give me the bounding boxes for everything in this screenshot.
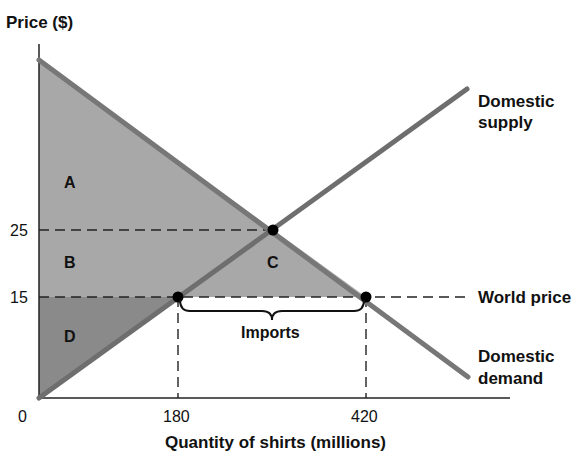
y-axis-title: Price ($) xyxy=(6,13,73,32)
region-b-label: B xyxy=(64,254,76,271)
demand-label-line1: Domestic xyxy=(478,347,555,366)
region-a-label: A xyxy=(64,174,76,191)
imports-label: Imports xyxy=(241,324,300,341)
world-price-label: World price xyxy=(478,288,571,307)
x-tick-180: 180 xyxy=(163,408,190,425)
y-tick-15: 15 xyxy=(10,289,28,306)
region-d-label: D xyxy=(64,328,76,345)
x-tick-420: 420 xyxy=(351,408,378,425)
region-c-label: C xyxy=(267,254,279,271)
domestic-demand-at-world-price-point xyxy=(361,292,372,303)
y-tick-25: 25 xyxy=(10,222,28,239)
x-tick-0: 0 xyxy=(18,408,27,425)
supply-label-line1: Domestic xyxy=(478,92,555,111)
domestic-supply-at-world-price-point xyxy=(173,292,184,303)
imports-brace xyxy=(180,300,364,320)
x-axis-title: Quantity of shirts (millions) xyxy=(165,433,386,452)
demand-label-line2: demand xyxy=(478,369,543,388)
supply-demand-chart: Price ($) Quantity of shirts (millions) … xyxy=(0,0,582,464)
supply-label-line2: supply xyxy=(478,113,533,132)
equilibrium-point xyxy=(268,225,279,236)
